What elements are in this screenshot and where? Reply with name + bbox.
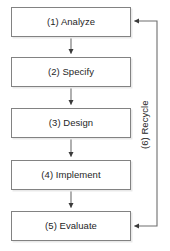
node-implement[interactable]: (4) Implement bbox=[11, 160, 131, 190]
recycle-loop-label: (6) Recycle bbox=[137, 88, 151, 162]
node-analyze[interactable]: (1) Analyze bbox=[11, 7, 131, 37]
node-design-label: (3) Design bbox=[49, 118, 93, 128]
node-design[interactable]: (3) Design bbox=[11, 108, 131, 138]
recycle-loop-label-text: (6) Recycle bbox=[139, 101, 149, 150]
node-specify-label: (2) Specify bbox=[48, 67, 94, 77]
node-evaluate-label: (5) Evaluate bbox=[45, 221, 97, 231]
flowchart-canvas: (1) Analyze (2) Specify (3) Design (4) I… bbox=[0, 0, 170, 251]
node-implement-label: (4) Implement bbox=[41, 170, 100, 180]
node-evaluate[interactable]: (5) Evaluate bbox=[11, 211, 131, 241]
node-specify[interactable]: (2) Specify bbox=[11, 57, 131, 87]
node-analyze-label: (1) Analyze bbox=[47, 17, 95, 27]
